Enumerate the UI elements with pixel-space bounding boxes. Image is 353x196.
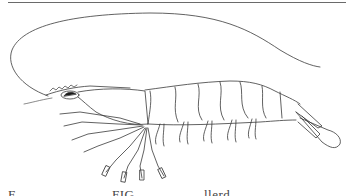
caption-fragment: F: [8, 188, 16, 196]
body-outline: [145, 81, 300, 104]
caption-fragment: FIG: [112, 188, 134, 196]
caption-fragment: llerd: [204, 188, 230, 196]
antenna: [11, 13, 320, 96]
uropod: [296, 112, 340, 148]
pereiopods: [60, 112, 166, 182]
shrimp-illustration: [0, 0, 353, 185]
figure-caption: F FIG llerd: [8, 188, 348, 196]
carapace: [78, 89, 148, 125]
